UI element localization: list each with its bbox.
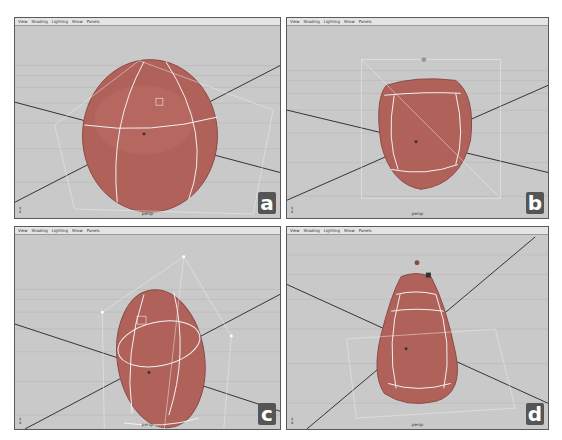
scene-squashed-sphere (287, 26, 548, 218)
axis-indicator: yx (19, 417, 21, 425)
camera-label: persp (412, 422, 423, 427)
camera-label: persp (142, 211, 153, 216)
menu-lighting[interactable]: Lighting (52, 228, 68, 234)
axis-indicator: yx (291, 417, 293, 425)
panel-label-c: c (258, 403, 276, 425)
menu-lighting[interactable]: Lighting (324, 228, 340, 234)
scene-sphere (15, 26, 280, 218)
menu-shading[interactable]: Shading (304, 19, 320, 25)
axis-indicator: yx (291, 206, 293, 214)
menu-shading[interactable]: Shading (304, 228, 320, 234)
menu-lighting[interactable]: Lighting (52, 19, 68, 25)
viewport-canvas[interactable]: yx persp d (287, 235, 548, 429)
panel-label-d: d (526, 403, 544, 425)
menu-panels[interactable]: Panels (87, 228, 100, 234)
scene-pear (287, 235, 548, 429)
menu-shading[interactable]: Shading (32, 228, 48, 234)
menu-panels[interactable]: Panels (359, 19, 372, 25)
viewport-panel-b[interactable]: View Shading Lighting Show Panels (286, 17, 549, 219)
viewport-menubar: View Shading Lighting Show Panels (15, 18, 280, 26)
viewport-panel-d[interactable]: View Shading Lighting Show Panels (286, 226, 549, 430)
menu-panels[interactable]: Panels (87, 19, 100, 25)
viewport-menubar: View Shading Lighting Show Panels (287, 18, 548, 26)
menu-show[interactable]: Show (344, 19, 355, 25)
viewport-panel-a[interactable]: View Shading Lighting Show Panels (14, 17, 281, 219)
panel-label-a: a (258, 192, 276, 214)
viewport-menubar: View Shading Lighting Show Panels (287, 227, 548, 235)
viewport-canvas[interactable]: yx persp c (15, 235, 280, 429)
menu-view[interactable]: View (18, 228, 28, 234)
viewport-canvas[interactable]: yx persp b (287, 26, 548, 218)
camera-label: persp (412, 211, 423, 216)
menu-show[interactable]: Show (344, 228, 355, 234)
panel-label-b: b (526, 192, 544, 214)
menu-shading[interactable]: Shading (32, 19, 48, 25)
menu-show[interactable]: Show (72, 228, 83, 234)
menu-view[interactable]: View (290, 19, 300, 25)
viewport-panel-c[interactable]: View Shading Lighting Show Panels (14, 226, 281, 430)
axis-indicator: yx (19, 206, 21, 214)
viewport-menubar: View Shading Lighting Show Panels (15, 227, 280, 235)
menu-panels[interactable]: Panels (359, 228, 372, 234)
menu-lighting[interactable]: Lighting (324, 19, 340, 25)
viewport-canvas[interactable]: yx persp a (15, 26, 280, 218)
menu-view[interactable]: View (18, 19, 28, 25)
menu-show[interactable]: Show (72, 19, 83, 25)
menu-view[interactable]: View (290, 228, 300, 234)
scene-tilted-egg (15, 235, 280, 429)
camera-label: persp (142, 422, 153, 427)
